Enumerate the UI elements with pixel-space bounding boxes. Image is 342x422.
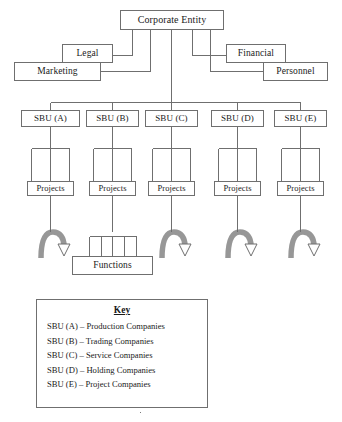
- key-title: Key: [37, 305, 207, 315]
- node-legal[interactable]: Legal: [62, 44, 113, 63]
- node-projects-a[interactable]: Projects: [27, 181, 74, 196]
- node-sbu-b[interactable]: SBU (B): [86, 110, 139, 127]
- node-personnel[interactable]: Personnel: [263, 62, 328, 81]
- cycle-arrow-icon: [286, 228, 322, 260]
- node-sbu-a[interactable]: SBU (A): [21, 110, 80, 127]
- node-marketing[interactable]: Marketing: [14, 62, 101, 81]
- org-chart-diagram: Corporate Entity Legal Financial Marketi…: [0, 0, 342, 422]
- node-functions[interactable]: Functions: [72, 256, 153, 275]
- node-projects-c[interactable]: Projects: [148, 181, 195, 196]
- node-corporate-entity[interactable]: Corporate Entity: [120, 10, 224, 30]
- node-financial[interactable]: Financial: [226, 44, 286, 63]
- node-projects-d[interactable]: Projects: [214, 181, 261, 196]
- key-entry-sbu-b: SBU (B) – Trading Companies: [37, 334, 207, 349]
- stray-mark: [140, 412, 141, 413]
- cycle-arrow-icon: [157, 228, 193, 260]
- key-entry-sbu-d: SBU (D) – Holding Companies: [37, 363, 207, 378]
- node-sbu-c[interactable]: SBU (C): [145, 110, 198, 127]
- cycle-arrow-icon: [36, 228, 72, 260]
- key-entry-sbu-e: SBU (E) – Project Companies: [37, 377, 207, 392]
- node-projects-b[interactable]: Projects: [89, 181, 136, 196]
- node-sbu-e[interactable]: SBU (E): [274, 110, 327, 127]
- node-sbu-d[interactable]: SBU (D): [211, 110, 264, 127]
- node-projects-e[interactable]: Projects: [277, 181, 324, 196]
- cycle-arrow-icon: [223, 228, 259, 260]
- key-entry-sbu-a: SBU (A) – Production Companies: [37, 319, 207, 334]
- key-entry-sbu-c: SBU (C) – Service Companies: [37, 348, 207, 363]
- key-legend-panel: Key SBU (A) – Production Companies SBU (…: [36, 299, 208, 408]
